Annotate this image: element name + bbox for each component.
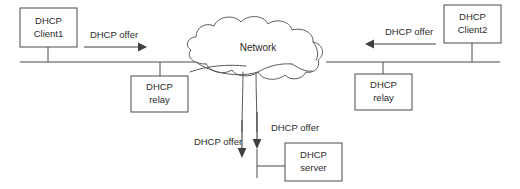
flow-offer-left-arrow-head (138, 43, 147, 52)
node-server-label-line1: DHCP (300, 149, 327, 160)
flow-offer-server-right-label: DHCP offer (271, 122, 319, 133)
node-relay-right-label-line1: DHCP (370, 79, 397, 90)
node-client1-label-line1: DHCP (35, 15, 62, 26)
node-relay-left-label-line1: DHCP (146, 81, 173, 92)
flow-offer-server-right-arrow-head (253, 139, 262, 149)
node-relay-left-label-line2: relay (149, 94, 170, 105)
node-server-label-line2: server (300, 162, 326, 173)
node-relay-right-label-line2: relay (373, 92, 394, 103)
dhcp-relay-diagram: DHCP Client1 DHCP relay DHCP offer DHCP … (0, 0, 520, 189)
flow-offer-server-left-label: DHCP offer (194, 136, 242, 147)
diagram-canvas: DHCP Client1 DHCP relay DHCP offer DHCP … (0, 0, 520, 189)
node-client2-label-line1: DHCP (459, 11, 486, 22)
flow-offer-server-left-arrow-head (238, 148, 247, 158)
cloud-label: Network (240, 42, 278, 53)
flow-offer-left-label: DHCP offer (90, 29, 138, 40)
node-client2-label-line2: Client2 (458, 24, 488, 35)
flow-offer-right-label: DHCP offer (385, 26, 433, 37)
flow-offer-right-arrow-head (365, 40, 374, 49)
node-client1-label-line2: Client1 (34, 28, 64, 39)
